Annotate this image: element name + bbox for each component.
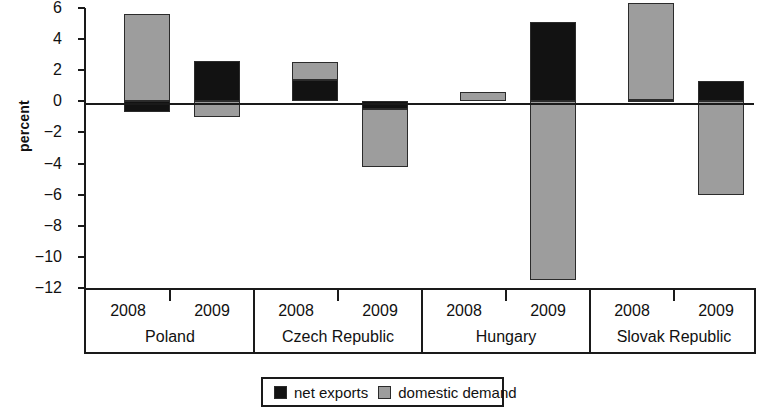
bar-group [460,8,506,288]
bar-group [530,8,576,288]
legend-item-domestic-demand: domestic demand [378,384,516,401]
legend-item-net-exports: net exports [274,384,368,401]
zero-baseline [84,103,754,105]
bar-segment-domestic-demand [460,92,506,101]
bar-segment-domestic-demand [292,62,338,79]
legend-swatch-domestic-demand [378,386,391,399]
bar-segment-net-exports [698,81,744,101]
bar-chart: percent 6420−2−4−6−8−10−12 20082009Polan… [0,0,765,413]
y-axis-tick-label: 2 [18,65,62,75]
year-label: 2009 [338,302,422,320]
legend-swatch-net-exports [274,386,287,399]
category-tick-mark [673,290,675,301]
year-label: 2009 [674,302,758,320]
bar-segment-domestic-demand [628,3,674,99]
y-axis-tick-label: −12 [18,283,62,293]
bar-group [292,8,338,288]
y-axis-tick-label: 6 [18,3,62,13]
y-axis-tick-label: 4 [18,34,62,44]
y-axis-tick-label: −6 [18,190,62,200]
bar-segment-net-exports [194,61,240,101]
country-label: Hungary [422,328,590,346]
bar-segment-domestic-demand [698,101,744,194]
year-label: 2009 [506,302,590,320]
bar-segment-domestic-demand [362,109,408,167]
y-axis-tick-label: −4 [18,159,62,169]
y-axis-tick-label: −8 [18,221,62,231]
category-cell: 20082009Czech Republic [254,290,422,352]
category-cell: 20082009Poland [86,290,254,352]
y-axis-tick-label: 0 [18,96,62,106]
bar-group [124,8,170,288]
category-axis: 20082009Poland20082009Czech Republic2008… [84,288,756,354]
bar-segment-net-exports [628,100,674,102]
bar-segment-domestic-demand [530,101,576,280]
bar-group [628,8,674,288]
category-cell: 20082009Slovak Republic [590,290,758,352]
category-separator [589,290,591,352]
category-separator [421,290,423,352]
legend-label-domestic-demand: domestic demand [398,384,516,401]
y-axis-tick-label: −10 [18,252,62,262]
category-tick-mark [337,290,339,301]
legend-label-net-exports: net exports [294,384,368,401]
plot-area [84,8,756,288]
year-label: 2009 [170,302,254,320]
y-axis-tick-labels: 6420−2−4−6−8−10−12 [16,0,62,300]
y-axis-tick-label: −2 [18,127,62,137]
bar-group [194,8,240,288]
country-label: Czech Republic [254,328,422,346]
bar-group [698,8,744,288]
year-label: 2008 [590,302,674,320]
bar-segment-domestic-demand [124,14,170,101]
year-label: 2008 [254,302,338,320]
year-label: 2008 [86,302,170,320]
chart-legend: net exports domestic demand [261,377,504,407]
country-label: Slovak Republic [590,328,758,346]
category-separator [253,290,255,352]
category-tick-mark [505,290,507,301]
category-tick-mark [169,290,171,301]
year-label: 2008 [422,302,506,320]
bar-group [362,8,408,288]
bar-segment-net-exports [292,80,338,102]
country-label: Poland [86,328,254,346]
bar-segment-net-exports [530,22,576,101]
category-cell: 20082009Hungary [422,290,590,352]
